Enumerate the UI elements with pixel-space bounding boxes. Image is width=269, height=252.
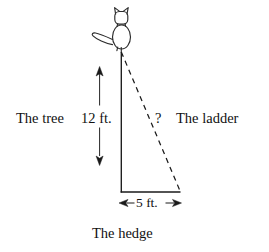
label-tree-height: 12 ft. xyxy=(81,111,112,126)
label-the-tree: The tree xyxy=(16,111,64,126)
label-hedge-width: 5 ft. xyxy=(136,196,158,210)
label-the-ladder: The ladder xyxy=(176,111,238,126)
figure-graphics xyxy=(0,0,269,252)
diagram-canvas: The tree 12 ft. ? The ladder 5 ft. The h… xyxy=(0,0,269,252)
label-the-hedge: The hedge xyxy=(92,226,153,241)
ladder-line xyxy=(121,52,180,192)
cat-icon xyxy=(92,8,130,52)
label-unknown-length: ? xyxy=(155,111,161,126)
